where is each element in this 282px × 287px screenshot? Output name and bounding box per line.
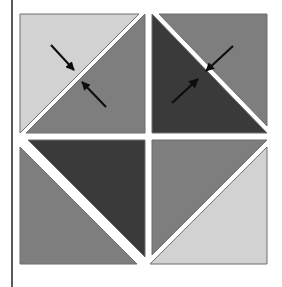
figure-graphic bbox=[19, 13, 268, 265]
figure-plate bbox=[19, 13, 268, 265]
vertical-margin-rule bbox=[11, 0, 13, 287]
quadrant-top-right bbox=[152, 14, 267, 133]
page-canvas bbox=[0, 0, 282, 287]
